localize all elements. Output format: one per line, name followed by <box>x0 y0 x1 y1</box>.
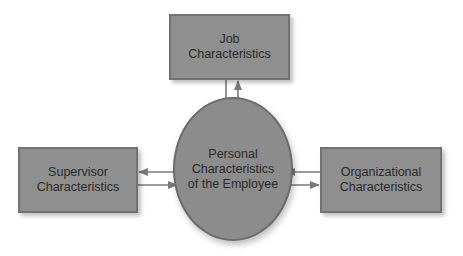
job-characteristics-label: Job Characteristics <box>188 32 271 62</box>
personal-characteristics-label: Personal Characteristics of the Employee <box>188 147 278 192</box>
supervisor-characteristics-label: Supervisor Characteristics <box>37 165 120 195</box>
job-characteristics-node: Job Characteristics <box>169 14 290 80</box>
personal-characteristics-node: Personal Characteristics of the Employee <box>173 97 293 241</box>
supervisor-characteristics-node: Supervisor Characteristics <box>18 147 138 213</box>
organizational-characteristics-node: Organizational Characteristics <box>320 147 442 213</box>
organizational-characteristics-label: Organizational Characteristics <box>340 165 423 195</box>
